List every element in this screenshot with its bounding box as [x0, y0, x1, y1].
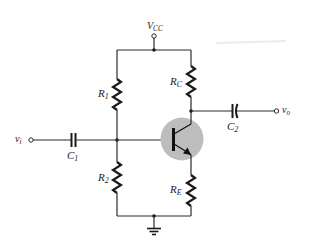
- circuit-diagram: VCC R1 R2 RC RE C1 C2 vi vo: [0, 0, 309, 248]
- output-vo-terminal: [274, 109, 278, 113]
- label-r1: R1: [98, 88, 109, 101]
- label-vcc: VCC: [147, 21, 163, 33]
- scan-artifact: [216, 41, 286, 43]
- resistor-re: [187, 155, 195, 216]
- resistor-rc: [187, 50, 195, 124]
- vcc-junction-dot: [152, 48, 156, 52]
- label-r2: R2: [98, 172, 109, 185]
- label-c2: C2: [227, 121, 238, 134]
- npn-transistor-q1: [161, 118, 204, 161]
- vcc-terminal: [152, 34, 156, 50]
- label-re: RE: [170, 184, 182, 197]
- label-c1: C1: [67, 150, 78, 163]
- ground-icon: [147, 216, 161, 235]
- capacitor-c1: [33, 133, 117, 147]
- label-vo: vo: [282, 105, 290, 117]
- input-vi-terminal: [29, 138, 33, 142]
- schematic-canvas: [0, 0, 309, 248]
- capacitor-c2: [191, 104, 274, 118]
- resistor-r2: [113, 140, 121, 216]
- resistor-r1: [113, 50, 121, 140]
- label-vi: vi: [15, 134, 21, 146]
- label-rc: RC: [170, 76, 182, 89]
